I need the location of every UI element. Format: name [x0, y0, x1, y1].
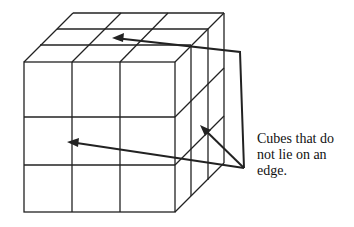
pointer-arrows	[70, 38, 244, 168]
annotation-label: Cubes that do not lie on an edge.	[257, 131, 353, 179]
cube-diagram: Cubes that do not lie on an edge.	[0, 0, 354, 227]
label-line: not lie on an	[257, 147, 353, 163]
front-face	[24, 62, 175, 212]
label-line: edge.	[257, 163, 353, 179]
cube-drawing	[0, 0, 354, 227]
label-line: Cubes that do	[257, 131, 353, 147]
